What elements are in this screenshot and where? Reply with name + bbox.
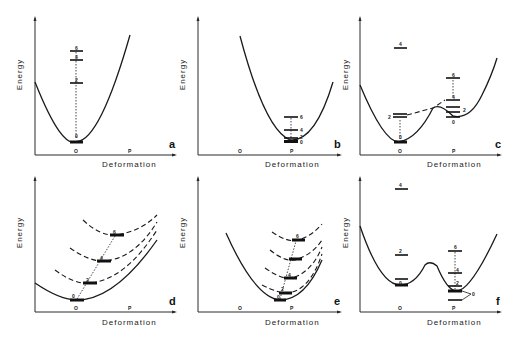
panel-letter: f	[496, 295, 500, 307]
panel-c	[359, 16, 503, 157]
panel-letter: d	[169, 295, 176, 307]
tick-o: O	[238, 305, 242, 311]
tick-o: O	[74, 148, 78, 154]
tick-p: P	[452, 148, 455, 154]
y-axis-label: Energy	[15, 217, 24, 248]
level-label: 4	[288, 272, 291, 278]
panel-a	[34, 16, 178, 157]
level-label: 0	[399, 134, 402, 140]
level-label: 2	[456, 280, 459, 286]
x-axis-label: Deformation	[102, 160, 157, 169]
y-axis-label: Energy	[178, 217, 187, 248]
level-label: 6	[113, 229, 116, 235]
level-label: 4	[399, 182, 402, 188]
level-label: 4	[399, 41, 402, 47]
level-label: 2	[399, 248, 402, 254]
panel-f	[359, 176, 503, 314]
tick-o: O	[398, 305, 402, 311]
level-label: 2	[281, 286, 284, 292]
level-label: 4	[300, 127, 303, 133]
level-label: 4	[100, 255, 103, 261]
x-axis-label: Deformation	[265, 160, 320, 169]
x-axis-label: Deformation	[427, 318, 482, 327]
y-axis-label: Energy	[341, 217, 350, 248]
tick-p: P	[452, 305, 455, 311]
x-axis-label: Deformation	[102, 318, 157, 327]
tick-p: P	[128, 305, 131, 311]
tick-o: O	[74, 305, 78, 311]
level-label: 4	[75, 54, 78, 60]
level-label: 2	[388, 114, 391, 120]
level-label: 6	[452, 72, 455, 78]
y-axis-label: Energy	[15, 59, 24, 90]
panel-b	[197, 16, 343, 157]
y-axis-label: Energy	[341, 59, 350, 90]
tick-p: P	[290, 305, 293, 311]
tick-o: O	[398, 148, 402, 154]
x-axis-label: Deformation	[265, 318, 320, 327]
y-axis-label: Energy	[178, 59, 187, 90]
level-label: 2	[75, 77, 78, 83]
panel-d	[34, 176, 178, 314]
level-label: 6	[75, 45, 78, 51]
potential-curve	[360, 58, 497, 142]
level-label: 0	[472, 291, 475, 297]
level-label: 4	[452, 94, 455, 100]
panel-letter: e	[334, 295, 340, 307]
energy-deformation-figure	[0, 0, 521, 339]
level-label: 0	[399, 280, 402, 286]
panel-e	[197, 176, 343, 314]
tick-p: P	[290, 148, 293, 154]
potential-curve	[240, 36, 333, 140]
level-label: 0	[277, 294, 280, 300]
tick-p: P	[128, 148, 131, 154]
level-label: 0	[75, 133, 78, 139]
level-label: 2	[86, 277, 89, 283]
level-label: 2	[463, 107, 466, 113]
x-axis-label: Deformation	[427, 160, 482, 169]
tick-o: O	[238, 148, 242, 154]
level-label: 6	[296, 233, 299, 239]
panel-letter: a	[169, 138, 175, 150]
level-label: 6	[454, 244, 457, 250]
panel-letter: c	[495, 138, 501, 150]
level-label: 0	[72, 293, 75, 299]
level-label: 2	[300, 134, 303, 140]
panel-letter: b	[334, 138, 341, 150]
level-label: 4	[456, 267, 459, 273]
level-label: 0	[452, 119, 455, 125]
level-label: 6	[300, 114, 303, 120]
